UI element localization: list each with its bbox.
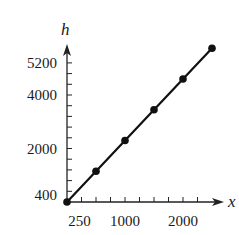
y-axis-label: h bbox=[61, 20, 70, 39]
data-point bbox=[92, 167, 100, 175]
y-tick-label: 2000 bbox=[27, 141, 57, 157]
y-tick-label: 5200 bbox=[27, 55, 57, 71]
series-line bbox=[67, 48, 212, 202]
line-chart: 25010002000400200040005200 x h bbox=[0, 0, 239, 235]
x-tick-label: 2000 bbox=[168, 213, 198, 229]
y-tick-label: 4000 bbox=[27, 87, 57, 103]
x-tick-label: 250 bbox=[68, 213, 91, 229]
tick-labels: 25010002000400200040005200 bbox=[27, 55, 198, 229]
data-point bbox=[63, 198, 71, 206]
data-point bbox=[150, 106, 158, 114]
x-axis-label: x bbox=[227, 192, 236, 211]
data-point bbox=[208, 44, 216, 52]
data-point bbox=[121, 137, 129, 145]
data-point bbox=[179, 75, 187, 83]
x-tick-label: 1000 bbox=[110, 213, 140, 229]
data-series bbox=[63, 44, 216, 205]
y-tick-label: 400 bbox=[35, 187, 58, 203]
